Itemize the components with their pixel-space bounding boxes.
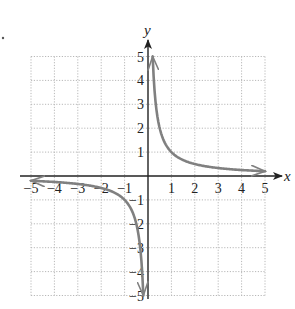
x-tick-label: 2 [191,181,198,196]
y-tick-label: 1 [137,145,144,160]
y-tick-label: 3 [137,97,144,112]
y-tick-label: 4 [137,73,144,88]
y-axis-label: y [142,22,151,38]
x-axis-label: x [283,168,291,184]
x-tick-label: 4 [238,181,245,196]
y-tick-label: 5 [137,50,144,65]
curve-branch-negative [31,181,143,296]
y-tick-label: 2 [137,121,144,136]
y-tick-label: −5 [129,289,144,304]
axes: x y [20,22,291,299]
hyperbola-plot: x y −5−4−3−2−112345−5−4−3−2−112345 [0,0,295,309]
x-tick-label: −5 [24,181,39,196]
artifact-mark [2,37,4,39]
y-tick-label: −1 [129,193,144,208]
x-tick-label: 1 [168,181,175,196]
x-tick-label: 3 [215,181,222,196]
x-tick-label: 5 [262,181,269,196]
curve-branch-positive [153,57,265,172]
